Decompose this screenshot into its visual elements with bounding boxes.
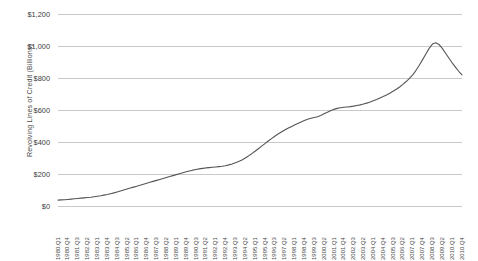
x-axis-tick-label: 1989.Q4 — [183, 237, 189, 260]
x-axis-tick-label: 2004.Q4 — [380, 237, 386, 260]
x-axis-tick-label: 1995.Q1 — [252, 237, 258, 260]
x-axis-tick-label: 1998.Q1 — [291, 237, 297, 260]
x-axis-tick-label: 1990.Q3 — [193, 237, 199, 260]
x-axis-tick-label: 1983.Q4 — [104, 237, 110, 260]
x-axis-tick-label: 2000.Q2 — [321, 237, 327, 260]
x-axis-tick-label: 2007.Q4 — [419, 237, 425, 260]
x-axis-tick-label: 1983.Q1 — [94, 237, 100, 260]
x-axis-tick-label: 1985.Q2 — [124, 237, 130, 260]
x-axis-tick-label: 2001.Q4 — [340, 237, 346, 260]
x-axis-tick-label: 1987.Q3 — [153, 237, 159, 260]
x-axis-tick-labels: 1980.Q11980.Q41981.Q31982.Q21983.Q11983.… — [58, 208, 462, 260]
x-axis-tick-label: 2010.Q4 — [459, 237, 465, 260]
x-axis-tick-label: 1992.Q1 — [212, 237, 218, 260]
y-axis-tick-label: $1,200 — [27, 10, 50, 19]
x-axis-tick-label: 2005.Q3 — [390, 237, 396, 260]
x-axis-tick-label: 1980.Q4 — [64, 237, 70, 260]
x-axis-tick-label: 1996.Q3 — [271, 237, 277, 260]
x-axis-tick-label: 2007.Q1 — [409, 237, 415, 260]
series-polyline — [58, 43, 462, 200]
x-axis-tick-label: 2004.Q1 — [370, 237, 376, 260]
x-axis-tick-label: 2006.Q2 — [399, 237, 405, 260]
x-axis-tick-label: 1995.Q4 — [262, 237, 268, 260]
x-axis-tick-label: 1992.Q4 — [222, 237, 228, 260]
y-axis-tick-label: $800 — [34, 74, 50, 83]
x-axis-tick-label: 1988.Q2 — [163, 237, 169, 260]
y-axis-tick-label: $0 — [42, 202, 50, 211]
x-axis-tick-label: 1998.Q4 — [301, 237, 307, 260]
y-axis-tick-label: $200 — [34, 170, 50, 179]
x-axis-tick-label: 1981.Q3 — [74, 237, 80, 260]
series-line — [58, 14, 462, 206]
x-axis-tick-label: 2009.Q2 — [439, 237, 445, 260]
x-axis-tick-label: 2001.Q1 — [331, 237, 337, 260]
plot-area — [58, 14, 462, 206]
x-axis-tick-label: 1986.Q1 — [133, 237, 139, 260]
x-axis-tick-label: 1997.Q2 — [281, 237, 287, 260]
x-axis-tick-label: 1984.Q3 — [114, 237, 120, 260]
y-axis-tick-label: $400 — [34, 138, 50, 147]
x-axis-tick-label: 2010.Q1 — [449, 237, 455, 260]
y-axis-tick-label: $600 — [34, 106, 50, 115]
gridline — [58, 206, 462, 207]
x-axis-tick-label: 1989.Q1 — [173, 237, 179, 260]
x-axis-tick-label: 1986.Q4 — [143, 237, 149, 260]
x-axis-tick-label: 1980.Q1 — [55, 237, 61, 260]
y-axis-tick-label: $1,000 — [27, 42, 50, 51]
x-axis-tick-label: 1993.Q3 — [232, 237, 238, 260]
x-axis-tick-label: 2003.Q2 — [360, 237, 366, 260]
x-axis-tick-label: 1982.Q2 — [84, 237, 90, 260]
x-axis-tick-label: 2002.Q3 — [350, 237, 356, 260]
y-axis-tick-labels: $0$200$400$600$800$1,000$1,200 — [0, 0, 54, 206]
x-axis-tick-label: 1991.Q2 — [202, 237, 208, 260]
x-axis-tick-label: 1999.Q3 — [311, 237, 317, 260]
x-axis-tick-label: 2008.Q3 — [429, 237, 435, 260]
revolving-credit-line-chart: Revolving Lines of Credit (Billions) $0$… — [0, 0, 478, 261]
x-axis-tick-label: 1994.Q2 — [242, 237, 248, 260]
